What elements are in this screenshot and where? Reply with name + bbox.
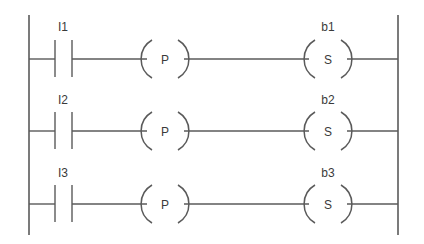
rung-3: I3 P S b3 xyxy=(29,166,398,223)
pulse-coil-2: P xyxy=(141,112,189,150)
contact-i3: I3 xyxy=(55,166,72,222)
coil-label: b3 xyxy=(321,166,335,180)
set-coil-b3: S b3 xyxy=(304,166,352,223)
pulse-coil-3: P xyxy=(141,185,189,223)
coil-letter: P xyxy=(161,198,169,212)
coil-letter: S xyxy=(324,125,332,139)
contact-label: I2 xyxy=(58,93,68,107)
coil-letter: P xyxy=(161,125,169,139)
ladder-diagram: I1 P S b1 I2 P xyxy=(0,0,424,244)
rung-2: I2 P S b2 xyxy=(29,93,398,150)
contact-label: I3 xyxy=(58,166,68,180)
set-coil-b1: S b1 xyxy=(304,20,352,78)
coil-letter: S xyxy=(324,53,332,67)
coil-letter: P xyxy=(161,53,169,67)
pulse-coil-1: P xyxy=(141,40,189,78)
rung-1: I1 P S b1 xyxy=(29,20,398,78)
coil-label: b1 xyxy=(321,20,335,34)
contact-i2: I2 xyxy=(55,93,72,149)
contact-label: I1 xyxy=(58,20,68,34)
set-coil-b2: S b2 xyxy=(304,93,352,150)
coil-letter: S xyxy=(324,198,332,212)
contact-i1: I1 xyxy=(55,20,72,77)
coil-label: b2 xyxy=(321,93,335,107)
